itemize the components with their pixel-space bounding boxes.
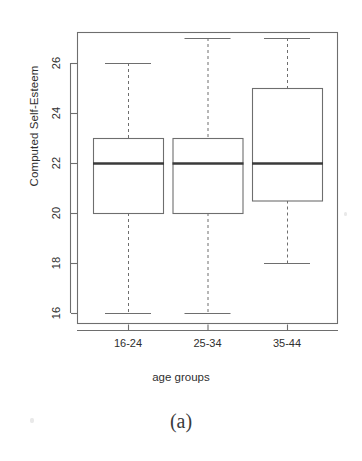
y-tick-label: 18 xyxy=(50,250,62,276)
figure-caption: (a) xyxy=(0,410,362,433)
x-tick-label-16-24: 16-24 xyxy=(98,337,158,349)
box-iqr xyxy=(94,139,164,214)
boxplot-box-16-24 xyxy=(93,63,164,314)
boxplot-figure: Computed Self-Esteem 161820222426 16-242… xyxy=(0,0,362,461)
box-iqr xyxy=(173,139,243,214)
box-iqr xyxy=(253,89,323,202)
y-tick-label: 24 xyxy=(50,100,62,126)
boxplot-box-35-44 xyxy=(252,38,323,264)
x-tick-label-35-44: 35-44 xyxy=(257,337,317,349)
y-tick-label: 16 xyxy=(50,300,62,326)
boxplot-box-25-34 xyxy=(173,38,244,314)
x-tick-label-25-34: 25-34 xyxy=(178,337,238,349)
y-tick-label: 26 xyxy=(50,50,62,76)
scan-artifact xyxy=(344,212,347,216)
scan-artifact xyxy=(30,418,34,423)
y-tick-label: 20 xyxy=(50,200,62,226)
y-tick-label: 22 xyxy=(50,150,62,176)
x-axis-title: age groups xyxy=(0,371,362,383)
y-axis-title: Computed Self-Esteem xyxy=(28,26,40,226)
